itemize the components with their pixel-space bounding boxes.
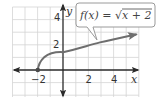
x-axis-label: x <box>131 73 138 86</box>
function-callout: f(x) = √x + 2 <box>76 3 155 40</box>
y-tick-label-4: 4 <box>54 12 60 23</box>
callout-expr: x + 2 <box>122 9 151 22</box>
start-point <box>36 68 41 73</box>
function-graph: −2 2 4 x 2 4 y f(x) = √x + 2 <box>0 0 164 106</box>
y-axis-label: y <box>65 5 73 18</box>
x-tick-label-neg2: −2 <box>31 74 46 85</box>
x-tick-label-2: 2 <box>86 74 92 85</box>
callout-label: f(x) = √x + 2 <box>79 9 152 22</box>
x-tick-label-4: 4 <box>111 74 117 85</box>
y-tick-label-2: 2 <box>53 39 59 50</box>
callout-fx: f(x) = <box>79 9 115 22</box>
